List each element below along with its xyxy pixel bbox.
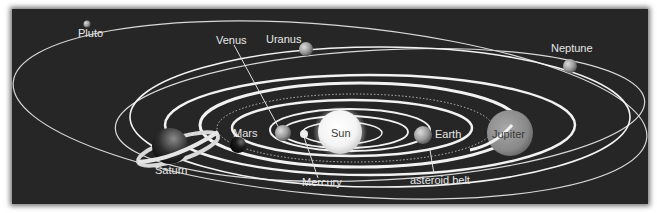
solar-system-diagram: Pluto Venus Uranus Neptune Mars Sun Eart… xyxy=(0,0,657,213)
pluto-label: Pluto xyxy=(78,27,103,39)
neptune-label: Neptune xyxy=(551,42,593,54)
mars-label: Mars xyxy=(233,127,258,139)
venus-planet xyxy=(275,125,291,141)
sun-label: Sun xyxy=(331,127,351,139)
saturn-label: Saturn xyxy=(155,164,187,176)
asteroid-belt-label: asteroid belt xyxy=(410,174,470,186)
uranus-label: Uranus xyxy=(266,33,302,45)
neptune-planet xyxy=(563,59,577,73)
mercury-planet xyxy=(300,130,308,138)
earth-planet xyxy=(414,126,432,144)
jupiter-label: Jupiter xyxy=(492,128,525,140)
mars-planet xyxy=(230,137,246,153)
earth-label: Earth xyxy=(435,128,461,140)
mercury-label: Mercury xyxy=(302,176,342,188)
venus-label: Venus xyxy=(216,34,247,46)
